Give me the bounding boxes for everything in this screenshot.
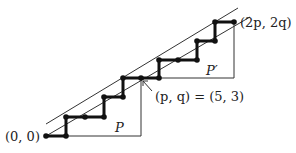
endpoint-label: (2p, 2q) bbox=[240, 16, 292, 29]
lattice-point bbox=[175, 57, 181, 63]
pointer-arrow bbox=[143, 81, 152, 91]
lattice-point bbox=[212, 38, 218, 44]
lattice-point bbox=[138, 75, 144, 81]
lattice-point bbox=[120, 94, 126, 100]
region-Pprime-label: P′ bbox=[206, 64, 218, 77]
pq-label: (p, q) = (5, 3) bbox=[155, 90, 244, 103]
lattice-point bbox=[43, 133, 49, 139]
lattice-point bbox=[63, 133, 69, 139]
lattice-point bbox=[82, 114, 88, 120]
lattice-point bbox=[63, 114, 69, 120]
lattice-point bbox=[212, 19, 218, 25]
region-P-label: P bbox=[115, 121, 124, 134]
lattice-point bbox=[156, 57, 162, 63]
origin-label: (0, 0) bbox=[5, 130, 40, 143]
lattice-point bbox=[194, 38, 200, 44]
lattice-point bbox=[231, 19, 237, 25]
region-Pprime-outline bbox=[141, 22, 234, 78]
lattice-point bbox=[101, 114, 107, 120]
lattice-point bbox=[156, 75, 162, 81]
lattice-point bbox=[194, 57, 200, 63]
lattice-point bbox=[120, 75, 126, 81]
lattice-point bbox=[101, 94, 107, 100]
